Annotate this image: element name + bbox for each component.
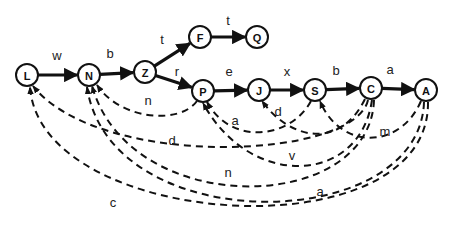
edge-label-z-p: r (175, 64, 180, 79)
edge-z-p (155, 75, 191, 87)
node-label: S (311, 85, 318, 97)
back-edge-a-l (30, 87, 428, 206)
back-edge-label-c-j: d (274, 104, 281, 119)
node-z: Z (134, 61, 156, 83)
node-a: A (415, 79, 437, 101)
node-label: F (197, 32, 204, 44)
automaton-graph: LNZFQPJSCA wbttrexbanadmdvnac (0, 0, 452, 237)
back-edge-label-a-s: m (380, 124, 391, 139)
back-edge-c-n (92, 86, 374, 186)
node-label: C (367, 83, 375, 95)
node-n: N (78, 64, 100, 86)
edge-label-f-q: t (226, 13, 230, 28)
node-label: A (422, 85, 430, 97)
node-j: J (248, 79, 270, 101)
edge-s-c (326, 88, 359, 89)
node-label: J (256, 85, 262, 97)
edge-label-j-s: x (284, 64, 291, 79)
back-edges-group (30, 85, 428, 206)
back-edge-label-p-n: n (144, 93, 151, 108)
node-label: Z (142, 67, 149, 79)
diagram-canvas: LNZFQPJSCA wbttrexbanadmdvnac (0, 0, 452, 237)
back-edge-label-a-n: a (316, 184, 324, 199)
node-label: Q (253, 32, 262, 44)
edge-label-z-f: t (160, 32, 164, 47)
back-edge-label-s-p: a (231, 113, 239, 128)
back-edge-label-c-n: n (224, 165, 231, 180)
edge-label-c-a: a (386, 62, 394, 77)
back-edge-label-c-l: d (168, 133, 175, 148)
node-label: N (85, 70, 93, 82)
edge-label-l-n: w (51, 48, 62, 63)
edge-label-s-c: b (332, 63, 339, 78)
edge-z-f (154, 43, 190, 66)
edge-label-n-z: b (106, 46, 113, 61)
edge-c-a (382, 88, 414, 89)
back-edge-s-p (207, 101, 311, 132)
node-f: F (189, 26, 211, 48)
node-l: L (16, 64, 38, 86)
node-c: C (360, 77, 382, 99)
edge-p-j (214, 90, 247, 91)
node-label: L (24, 70, 31, 82)
edge-label-p-j: e (225, 64, 232, 79)
back-edge-label-c-p: v (289, 148, 296, 163)
node-label: P (199, 86, 206, 98)
back-edge-label-a-l: c (110, 195, 117, 210)
node-p: P (192, 80, 214, 102)
node-q: Q (246, 26, 268, 48)
node-s: S (304, 79, 326, 101)
edge-n-z (100, 73, 133, 75)
